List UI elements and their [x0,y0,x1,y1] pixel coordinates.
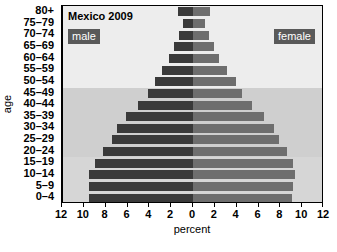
bar-female [193,182,293,191]
y-tick-65-69: 65–69 [23,40,54,52]
legend-female: female [274,29,315,44]
x-tick-label: 10 [289,208,313,220]
chart-title: Mexico 2009 [68,10,133,22]
bar-female [193,159,293,168]
bar-female [193,31,209,40]
x-tick-mark [170,203,171,207]
x-tick-mark [61,203,62,207]
plot-area: Mexico 2009 male female [61,5,323,203]
x-tick-label: 2 [158,208,182,220]
zero-axis-line [62,6,63,202]
bar-female [193,135,279,144]
bar-female [193,54,219,63]
bar-female [193,77,236,86]
y-tick-50-54: 50–54 [23,75,54,87]
x-tick-mark [105,203,106,207]
x-tick-label: 12 [49,208,73,220]
x-tick-label: 10 [71,208,95,220]
legend-male: male [68,29,100,44]
x-tick-mark [301,203,302,207]
x-tick-mark [236,203,237,207]
bar-male [169,54,193,63]
bar-male [89,182,193,191]
bar-female [193,112,264,121]
bar-male [179,31,193,40]
x-tick-mark [127,203,128,207]
bar-male [138,101,193,110]
bar-male [174,42,193,51]
x-axis-label: percent [61,223,323,235]
bar-female [193,124,274,133]
x-tick-label: 0 [180,208,204,220]
x-tick-mark [279,203,280,207]
bar-female [193,7,210,16]
y-axis-tick-labels: 80+75–7970–7465–6960–6455–5950–5445–4940… [0,5,58,203]
y-tick-0-4: 0–4 [36,191,54,203]
bar-female [193,147,287,156]
x-axis: 12108642024681012 [61,203,323,225]
bar-male [148,89,193,98]
x-tick-mark [214,203,215,207]
x-tick-mark [148,203,149,207]
y-tick-10-14: 10–14 [23,168,54,180]
x-tick-label: 12 [311,208,335,220]
bar-male [178,7,193,16]
bar-male [95,159,193,168]
x-tick-label: 8 [267,208,291,220]
bar-female [193,42,214,51]
x-tick-label: 4 [224,208,248,220]
population-pyramid-chart: age 80+75–7970–7465–6960–6455–5950–5445–… [0,0,337,252]
bar-male [89,170,193,179]
bar-female [193,194,292,203]
bar-male [162,66,193,75]
x-tick-label: 6 [246,208,270,220]
bar-male [103,147,193,156]
bar-female [193,19,205,28]
x-tick-label: 6 [115,208,139,220]
bar-male [117,124,193,133]
x-tick-mark [258,203,259,207]
y-tick-80+: 80+ [35,5,54,17]
x-tick-label: 4 [136,208,160,220]
x-tick-mark [83,203,84,207]
bar-male [126,112,193,121]
bar-female [193,66,227,75]
bar-female [193,101,252,110]
bar-female [193,89,242,98]
bar-male [183,19,193,28]
x-tick-mark [322,203,323,207]
bar-female [193,170,295,179]
y-tick-25-29: 25–29 [23,133,54,145]
bar-male [112,135,193,144]
x-tick-label: 8 [93,208,117,220]
x-tick-label: 2 [202,208,226,220]
bar-male [89,194,193,203]
x-tick-mark [192,203,193,207]
bar-male [155,77,193,86]
